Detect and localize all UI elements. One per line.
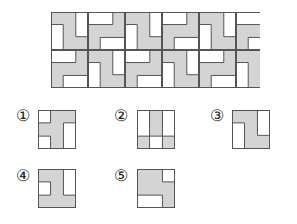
pattern-tile xyxy=(199,50,236,88)
pattern-tile xyxy=(236,50,260,88)
option-4-figure[interactable] xyxy=(38,169,76,208)
option-3-figure[interactable] xyxy=(232,110,270,149)
pattern-tile xyxy=(162,12,199,50)
pattern-tile xyxy=(125,50,162,88)
pattern-tile xyxy=(51,12,88,50)
option-1-figure[interactable] xyxy=(38,110,76,149)
option-1-label: ① xyxy=(16,108,30,124)
pattern-tile xyxy=(51,50,88,88)
pattern-tile xyxy=(88,50,125,88)
pattern-tile xyxy=(162,50,199,88)
pattern-tile xyxy=(199,12,236,50)
pattern-tile xyxy=(236,12,260,50)
option-2-figure[interactable] xyxy=(137,110,175,149)
option-2-label: ② xyxy=(114,108,128,124)
option-4-label: ④ xyxy=(16,168,30,184)
pattern-tile xyxy=(88,12,125,50)
pattern-tile xyxy=(125,12,162,50)
option-5-figure[interactable] xyxy=(137,169,175,208)
option-5-label: ⑤ xyxy=(114,168,128,184)
tiled-pattern xyxy=(51,12,260,88)
option-3-label: ③ xyxy=(210,108,224,124)
